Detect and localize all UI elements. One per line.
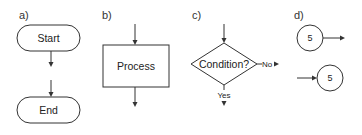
arrowhead-down-icon — [49, 62, 54, 67]
connector-out-label: 5 — [307, 33, 312, 43]
panel-b-label: b) — [102, 9, 112, 21]
arrowhead-down-icon — [133, 40, 138, 45]
arrowhead-down-icon — [133, 102, 138, 107]
panel-b: b) Process — [102, 9, 169, 107]
panel-d: d) 5 5 — [294, 9, 345, 91]
panel-d-label: d) — [294, 9, 304, 21]
yes-label: Yes — [217, 91, 230, 100]
panel-c: c) Condition? No Yes — [191, 9, 279, 106]
flowchart-symbols-diagram: a) Start End b) Process c) Condition? No… — [0, 0, 362, 135]
panel-a-label: a) — [19, 9, 29, 21]
start-label: Start — [37, 32, 59, 44]
panel-c-label: c) — [192, 9, 201, 21]
arrowhead-down-icon — [222, 38, 227, 43]
no-label: No — [262, 60, 273, 69]
arrowhead-right-icon — [340, 36, 345, 41]
arrowhead-right-icon — [312, 76, 317, 81]
connector-in-label: 5 — [327, 73, 332, 83]
arrowhead-right-icon — [274, 62, 279, 67]
arrowhead-down-icon — [49, 92, 54, 97]
arrowhead-down-icon — [222, 101, 227, 106]
process-label: Process — [117, 60, 155, 72]
panel-a: a) Start End — [17, 9, 80, 123]
end-label: End — [39, 104, 58, 116]
condition-label: Condition? — [199, 58, 249, 70]
